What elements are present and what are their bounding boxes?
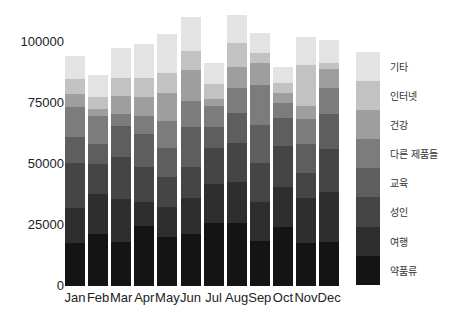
bar-segment (134, 226, 154, 286)
bar-segment (227, 43, 247, 67)
legend-swatch (356, 227, 380, 256)
bar-mar (111, 48, 131, 286)
bar-segment (296, 144, 316, 173)
bar-segment (273, 187, 293, 227)
bar-segment (319, 114, 339, 149)
bar-segment (157, 73, 177, 93)
y-tick-label: 50000 (28, 156, 64, 171)
bar-segment (227, 15, 247, 43)
legend-label: 기타 (390, 59, 408, 74)
legend-swatch (356, 168, 380, 197)
bar-segment (65, 94, 85, 107)
x-tick-label: Dec (315, 290, 343, 305)
bar-segment (111, 96, 131, 114)
legend-swatch (356, 197, 380, 226)
bar-segment (319, 149, 339, 192)
bar-feb (88, 75, 108, 286)
bar-segment (296, 119, 316, 144)
legend-label: 다른 제품들 (390, 146, 438, 161)
bar-segment (111, 126, 131, 157)
legend-label: 인터넷 (390, 88, 417, 103)
bar-segment (181, 198, 201, 234)
bar-segment (134, 97, 154, 116)
bar-segment (111, 199, 131, 242)
bar-segment (296, 37, 316, 65)
bar-segment (134, 116, 154, 134)
bar-segment (250, 163, 270, 202)
bar-segment (250, 85, 270, 125)
bar-segment (65, 208, 85, 243)
bar-segment (157, 207, 177, 237)
bar-jan (65, 56, 85, 286)
bar-segment (204, 127, 224, 148)
bar-segment (65, 243, 85, 286)
legend-swatch (356, 81, 380, 110)
legend-label: 성인 (390, 204, 408, 219)
bar-segment (111, 78, 131, 96)
bar-segment (204, 184, 224, 223)
legend-label: 여행 (390, 234, 408, 249)
bar-segment (296, 198, 316, 243)
bar-segment (88, 164, 108, 194)
bar-segment (65, 137, 85, 163)
bar-segment (227, 88, 247, 113)
bar-segment (181, 167, 201, 198)
bar-segment (204, 99, 224, 106)
legend-label: 교육 (390, 175, 408, 190)
bar-segment (157, 177, 177, 207)
bar-segment (65, 56, 85, 79)
bar-segment (250, 125, 270, 163)
bar-segment (181, 70, 201, 101)
bar-nov (296, 37, 316, 286)
bar-segment (227, 67, 247, 88)
bar-segment (88, 75, 108, 97)
bar-segment (250, 53, 270, 63)
bar-segment (273, 227, 293, 286)
y-tick-label: 100000 (21, 34, 64, 49)
bar-segment (296, 243, 316, 286)
bar-segment (273, 103, 293, 118)
bar-segment (227, 182, 247, 223)
bar-segment (181, 234, 201, 286)
bar-segment (88, 116, 108, 144)
bar-segment (204, 63, 224, 84)
legend-swatch (356, 256, 380, 285)
legend-swatch (356, 52, 380, 81)
bar-segment (273, 67, 293, 83)
bar-segment (157, 34, 177, 73)
bar-dec (319, 40, 339, 286)
bar-segment (319, 242, 339, 286)
bar-segment (157, 237, 177, 286)
bar-segment (181, 51, 201, 70)
bar-segment (227, 143, 247, 182)
bar-segment (65, 79, 85, 94)
bar-segment (227, 113, 247, 143)
bar-segment (157, 121, 177, 148)
bar-sep (250, 33, 270, 286)
bar-segment (273, 118, 293, 146)
bar-segment (181, 17, 201, 51)
bar-segment (65, 163, 85, 208)
bar-segment (88, 194, 108, 234)
y-tick-label: 75000 (28, 95, 64, 110)
bar-segment (111, 242, 131, 286)
bar-segment (111, 157, 131, 199)
bar-segment (296, 173, 316, 198)
bar-may (157, 34, 177, 286)
bar-segment (134, 44, 154, 78)
bar-segment (250, 202, 270, 241)
bar-segment (157, 93, 177, 121)
bar-jun (181, 17, 201, 286)
bar-segment (204, 106, 224, 127)
bar-segment (273, 93, 293, 103)
bar-segment (204, 148, 224, 184)
bar-segment (319, 69, 339, 88)
legend-label: 건강 (390, 117, 408, 132)
bar-segment (65, 107, 85, 137)
bar-segment (157, 148, 177, 177)
bar-segment (273, 146, 293, 187)
bar-aug (227, 15, 247, 286)
bar-segment (319, 88, 339, 114)
bar-jul (204, 63, 224, 286)
bar-segment (181, 101, 201, 127)
